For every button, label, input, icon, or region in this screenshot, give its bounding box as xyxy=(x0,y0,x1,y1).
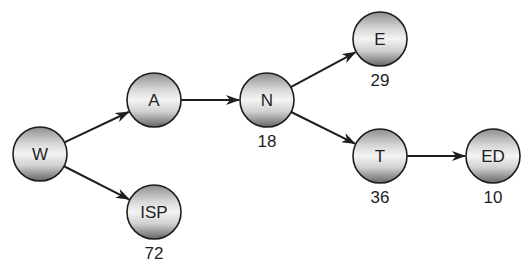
edge-n-to-e xyxy=(291,52,356,87)
node-w: W xyxy=(13,127,67,181)
node-t: T36 xyxy=(353,129,407,207)
node-n: N18 xyxy=(240,73,294,151)
node-label: W xyxy=(32,145,48,164)
node-e: E29 xyxy=(353,12,407,90)
directed-graph-diagram: WAN18E29T36ED10ISP72 xyxy=(0,0,529,274)
node-count-label: 72 xyxy=(145,244,164,263)
node-count-label: 18 xyxy=(258,132,277,151)
node-label: A xyxy=(148,91,160,110)
node-label: T xyxy=(375,147,385,166)
node-count-label: 10 xyxy=(484,188,503,207)
node-ed: ED10 xyxy=(466,129,520,207)
node-a: A xyxy=(127,73,181,127)
edge-w-to-a xyxy=(64,112,128,142)
edge-w-to-isp xyxy=(64,166,129,199)
edge-n-to-t xyxy=(291,112,355,144)
node-label: ED xyxy=(481,147,505,166)
node-label: ISP xyxy=(140,203,167,222)
node-isp: ISP72 xyxy=(127,185,181,263)
nodes-layer: WAN18E29T36ED10ISP72 xyxy=(13,12,520,263)
node-label: N xyxy=(261,91,273,110)
node-label: E xyxy=(374,30,385,49)
node-count-label: 36 xyxy=(371,188,390,207)
node-count-label: 29 xyxy=(371,71,390,90)
